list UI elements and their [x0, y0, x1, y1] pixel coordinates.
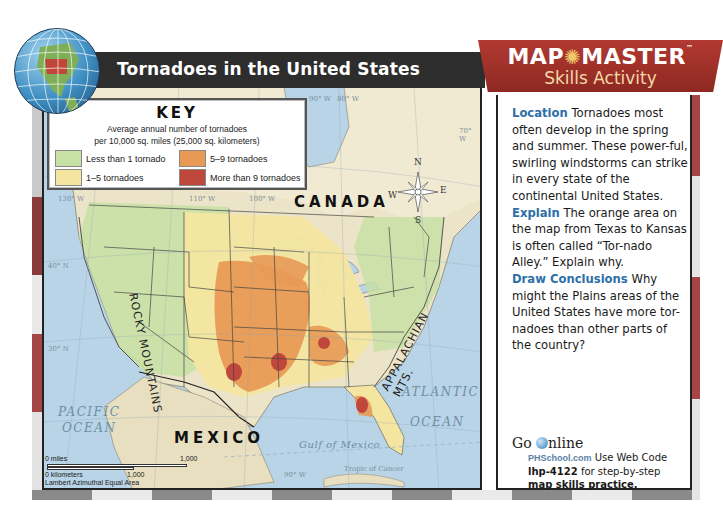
- swatch-less-than-1: [55, 150, 82, 167]
- label-atlantic-ocean: OCEAN: [410, 415, 464, 429]
- globe-o-icon: [536, 437, 548, 449]
- compass-n: N: [414, 157, 422, 167]
- key-label: Less than 1 tornado: [86, 154, 166, 164]
- key-subtitle: Average annual number of tornadoes per 1…: [49, 123, 305, 147]
- label-canada: CANADA: [294, 193, 389, 211]
- compass-w: W: [388, 190, 397, 200]
- label-pacific-ocean: OCEAN: [62, 421, 116, 435]
- grid-30n: 30° N: [48, 345, 69, 353]
- scale-bar-km: [47, 467, 134, 470]
- go-online-line2: lhp-4122 for step-by-step: [512, 465, 692, 478]
- skills-activity-panel: Location Tornadoes most often develop in…: [496, 95, 692, 490]
- scale-miles-label: 0 miles: [45, 455, 67, 462]
- go-online-go: Go: [512, 435, 532, 451]
- go-online-logo: Go nline: [512, 435, 692, 451]
- key-item-more-than-9: More than 9 tornadoes: [179, 169, 301, 186]
- keyword-location: Location: [512, 106, 568, 120]
- key-subtitle-line2: per 10,000 sq. miles (25,000 sq. kilomet…: [49, 135, 305, 147]
- key-label: More than 9 tornadoes: [210, 173, 301, 183]
- title-bar: Tornadoes in the United States: [95, 52, 485, 88]
- key-item-1-5: 1–5 tornadoes: [55, 169, 144, 186]
- map-master-title: MAP✺MASTER™: [478, 44, 723, 69]
- label-tropic-of-cancer: Tropic of Cancer: [344, 465, 404, 473]
- swatch-1-5: [55, 169, 82, 186]
- key-subtitle-line1: Average annual number of tornadoes: [49, 123, 305, 135]
- swatch-5-9: [179, 150, 206, 167]
- map-master-subtitle: Skills Activity: [478, 68, 723, 88]
- swatch-more-than-9: [179, 169, 206, 186]
- projection-label: Lambert Azimuthal Equal Area: [45, 479, 139, 486]
- compass-e: E: [440, 185, 447, 195]
- activity-text: Location Tornadoes most often develop in…: [512, 105, 688, 354]
- sidebar-stripe: [692, 95, 700, 500]
- label-pacific: PACIFIC: [58, 405, 120, 419]
- grid-90w-top: 90° W: [309, 95, 331, 103]
- go-online-line1: PHSchool.com Use Web Code: [512, 451, 692, 465]
- key-heading: KEY: [49, 104, 305, 122]
- map-master-header: MAP✺MASTER™ Skills Activity: [478, 40, 723, 92]
- web-code-text2: for step-by-step: [581, 466, 661, 477]
- grid-80w: 80° W: [337, 95, 359, 103]
- grid-40n: 40° N: [48, 262, 69, 270]
- label-gulf-of-mexico: Gulf of Mexico: [299, 439, 380, 450]
- grid-90w-bottom: 90° W: [284, 471, 306, 479]
- label-atlantic: ATLANTIC: [402, 385, 479, 399]
- go-online-line3: map skills practice.: [512, 478, 692, 491]
- location-text: Tornadoes most often develop in the spri…: [512, 106, 688, 203]
- globe-icon: [14, 28, 100, 114]
- scale-km-label: 0 kilometers: [45, 471, 83, 478]
- map-scale: 0 miles 1,000 0 kilometers 1,000 Lambert…: [45, 455, 195, 485]
- key-label: 1–5 tornadoes: [86, 173, 144, 183]
- grid-100w: 100° W: [249, 195, 275, 203]
- key-label: 5–9 tornadoes: [210, 154, 268, 164]
- grid-130w: 130° W: [58, 195, 84, 203]
- map-key: KEY Average annual number of tornadoes p…: [47, 98, 307, 190]
- key-item-5-9: 5–9 tornadoes: [179, 150, 268, 167]
- web-code: lhp-4122: [528, 466, 578, 477]
- go-online-nline: nline: [548, 435, 583, 451]
- keyword-explain: Explain: [512, 206, 560, 220]
- page-title: Tornadoes in the United States: [117, 59, 420, 79]
- frame-bottom-stripe: [32, 490, 700, 500]
- frame-left-stripe: [32, 100, 42, 490]
- trademark: ™: [686, 44, 694, 52]
- scale-km-value: 1,000: [127, 471, 145, 478]
- go-online-box: Go nline PHSchool.com Use Web Code lhp-4…: [512, 435, 692, 491]
- grid-70w: 70° W: [459, 127, 480, 143]
- phschool-link[interactable]: PHSchool.com: [528, 453, 592, 463]
- map-master-master: MASTER: [581, 44, 686, 69]
- scale-miles-value: 1,000: [180, 455, 198, 462]
- map-master-map: MAP: [507, 44, 564, 69]
- grid-110w: 110° W: [189, 195, 215, 203]
- label-mexico: MEXICO: [174, 429, 264, 447]
- key-item-less-than-1: Less than 1 tornado: [55, 150, 166, 167]
- compass-star-icon: ✺: [564, 45, 581, 69]
- compass-s: S: [415, 215, 421, 225]
- web-code-text: Use Web Code: [595, 452, 667, 463]
- keyword-draw-conclusions: Draw Conclusions: [512, 272, 628, 286]
